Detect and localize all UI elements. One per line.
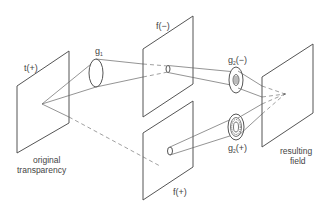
resulting-field-plane: [262, 44, 313, 147]
g2-plus-lens: [228, 114, 244, 140]
label-t-plus: t(+): [24, 63, 38, 73]
label-transparency: transparency: [17, 165, 67, 175]
label-f-minus: f(−): [156, 21, 170, 31]
label-field: field: [290, 156, 306, 166]
focal-point: [284, 93, 286, 95]
f-plus-aperture: [168, 147, 173, 155]
optical-diagram: t(+) g1 f(−) f(+) g2(−) g2(+) original t…: [0, 0, 330, 213]
label-original: original: [33, 155, 61, 165]
label-g2-minus: g2(−): [228, 55, 247, 66]
label-f-plus: f(+): [173, 187, 187, 197]
label-g2-plus: g2(+): [228, 143, 247, 154]
label-g1: g1: [95, 46, 103, 57]
label-resulting: resulting: [280, 146, 312, 156]
g1-lens: [89, 59, 103, 87]
f-minus-aperture: [166, 66, 170, 73]
